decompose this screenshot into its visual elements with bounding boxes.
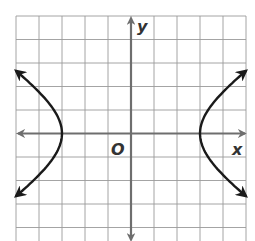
- origin-label: O: [111, 140, 125, 159]
- x-axis-label: x: [231, 140, 243, 159]
- hyperbola-graph: y x O: [0, 0, 255, 241]
- y-axis-label: y: [137, 17, 148, 36]
